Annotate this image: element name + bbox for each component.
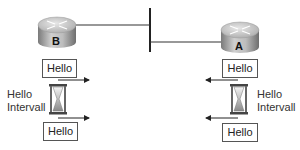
- hello-interval-label: Hello Intervall: [7, 88, 46, 114]
- hello-packet-box: Hello: [42, 59, 77, 78]
- hello-packet-box: Hello: [222, 59, 258, 78]
- hello-interval-label: Hello Intervall: [257, 88, 296, 114]
- router-b-label: B: [52, 35, 60, 47]
- hourglass-icon: [49, 84, 67, 115]
- hello-packet-box: Hello: [222, 123, 258, 142]
- hello-packet-box: Hello: [43, 122, 78, 141]
- hourglass-icon: [230, 84, 248, 115]
- router-a-label: A: [235, 40, 243, 52]
